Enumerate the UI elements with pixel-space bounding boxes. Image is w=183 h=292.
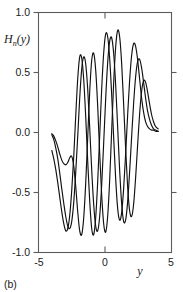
x-tick-label-0: 0	[102, 256, 108, 268]
curve-series-2	[52, 30, 158, 236]
figure-panel: 1.0 0.5 0.0 -0.5 -1.0 -5 0 5 Hn(y) y (b)	[0, 0, 183, 292]
y-axis-title-arg: (y)	[17, 32, 30, 46]
y-axis-ticks	[34, 13, 177, 253]
x-tick-label-minus5: -5	[34, 256, 43, 268]
y-axis-title: Hn(y)	[3, 32, 30, 48]
y-tick-label-minus1.0: -1.0	[12, 246, 30, 258]
y-tick-label-0.0: 0.0	[15, 126, 30, 138]
figure-caption: (b)	[4, 278, 17, 290]
y-tick-label-1.0: 1.0	[15, 6, 30, 18]
curve-series-0	[52, 37, 158, 232]
curve-group	[52, 30, 158, 236]
x-axis-title: y	[136, 264, 143, 278]
y-tick-label-0.5: 0.5	[15, 66, 30, 78]
curve-series-1	[52, 33, 158, 236]
plot-chart: 1.0 0.5 0.0 -0.5 -1.0 -5 0 5 Hn(y) y	[0, 0, 183, 292]
y-tick-label-minus0.5: -0.5	[12, 186, 30, 198]
plot-frame	[39, 13, 172, 253]
x-tick-label-5: 5	[168, 256, 174, 268]
